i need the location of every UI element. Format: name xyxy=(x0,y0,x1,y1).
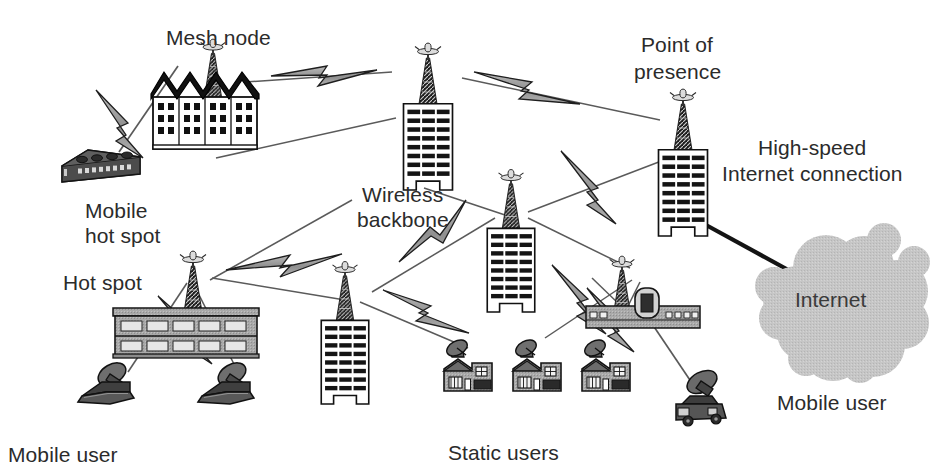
label-point-of-presence-line2: presence xyxy=(634,60,721,83)
label-wireless-backbone-line2: backbone xyxy=(357,208,449,231)
label-mesh-node: Mesh node xyxy=(166,26,271,49)
label-mobile-user-right: Mobile user xyxy=(777,391,887,414)
label-high-speed-line2: Internet connection xyxy=(722,162,903,185)
label-point-of-presence-line1: Point of xyxy=(641,33,713,56)
label-static-users: Static users xyxy=(448,441,559,464)
label-hot-spot: Hot spot xyxy=(63,271,142,294)
label-mobile-hot-spot-line1: Mobile xyxy=(85,199,147,222)
label-mobile-user-left: Mobile user xyxy=(8,443,118,466)
network-diagram: Mesh node Mobile hot spot Wireless backb… xyxy=(0,0,947,476)
label-high-speed-line1: High-speed xyxy=(758,136,866,159)
label-internet: Internet xyxy=(795,288,866,311)
diagram-canvas: Mesh node Mobile hot spot Wireless backb… xyxy=(0,0,947,476)
label-mobile-hot-spot-line2: hot spot xyxy=(85,224,161,247)
label-wireless-backbone-line1: Wireless xyxy=(362,183,443,206)
